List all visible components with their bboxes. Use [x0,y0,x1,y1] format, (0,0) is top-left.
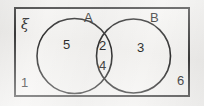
circle-set-a [37,19,112,94]
venn-circles [0,0,204,106]
circle-set-b [97,19,171,93]
set-label-b: B [150,11,159,24]
region-label-a-only: 5 [63,38,70,51]
set-label-a: A [84,11,93,24]
venn-diagram-figure: ξ A B 5 2 4 3 1 6 [0,0,204,106]
region-label-outside-right: 6 [177,74,184,87]
region-label-outside-left: 1 [21,76,28,89]
region-label-b-only: 3 [137,41,144,54]
region-label-intersection-bottom: 4 [99,59,106,72]
universal-set-label: ξ [21,17,29,31]
region-label-intersection-top: 2 [99,39,106,52]
